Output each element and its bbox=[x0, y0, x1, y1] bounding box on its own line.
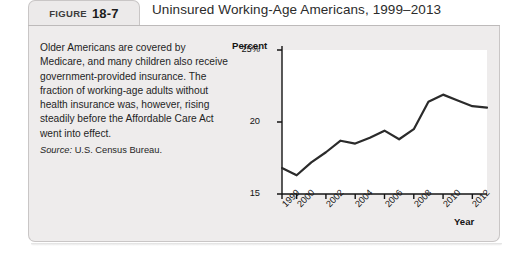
panel-drop-shadow bbox=[31, 243, 502, 246]
figure-label-word: FIGURE bbox=[49, 8, 87, 19]
plot-svg bbox=[226, 28, 498, 240]
x-axis-tick-marks bbox=[282, 194, 472, 199]
figure-number-tab: FIGURE 18-7 bbox=[28, 0, 140, 26]
caption-source: Source: U.S. Census Bureau. bbox=[40, 143, 230, 157]
data-series-line bbox=[282, 95, 487, 176]
axes-group bbox=[277, 46, 487, 199]
figure-header: FIGURE 18-7 Uninsured Working-Age Americ… bbox=[0, 0, 523, 26]
figure-title: Uninsured Working-Age Americans, 1999–20… bbox=[152, 2, 441, 17]
source-text: U.S. Census Bureau. bbox=[75, 145, 162, 155]
figure-container: FIGURE 18-7 Uninsured Working-Age Americ… bbox=[0, 0, 523, 260]
caption-body: Older Americans are covered by Medicare,… bbox=[40, 41, 230, 141]
figure-number: 18-7 bbox=[92, 6, 119, 21]
figure-caption: Older Americans are covered by Medicare,… bbox=[40, 41, 230, 157]
figure-body-panel: Older Americans are covered by Medicare,… bbox=[28, 26, 500, 242]
y-axis-tick-marks bbox=[277, 50, 282, 194]
line-chart: Percent Year 152025% 1999200020022004200… bbox=[226, 28, 498, 240]
source-label: Source: bbox=[40, 145, 72, 155]
